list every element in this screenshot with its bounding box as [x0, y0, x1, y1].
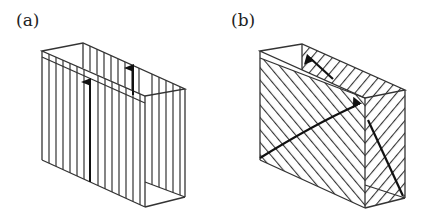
back-face-hatching — [90, 30, 180, 210]
panel-b: (b) — [213, 0, 426, 222]
panel-a: (a) — [0, 0, 213, 222]
front-face-hatching — [49, 30, 140, 215]
panel-a-diagram — [0, 0, 213, 222]
panel-b-diagram — [213, 0, 426, 222]
